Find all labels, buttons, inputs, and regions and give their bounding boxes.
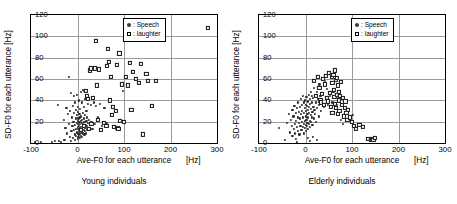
x-axis-tick-label: -100 (251, 146, 267, 154)
y-axis-tick-label: 40 (35, 97, 43, 105)
data-point-speech (290, 118, 292, 120)
data-point-speech (313, 117, 315, 119)
legend-entry-speech: : Speech (127, 21, 161, 30)
data-point-speech (290, 125, 292, 127)
data-point-speech (298, 122, 300, 124)
data-point-speech (307, 137, 309, 139)
data-point-speech (60, 141, 62, 143)
data-point-laughter (94, 39, 98, 43)
x-axis-tick-label: 100 (345, 146, 358, 154)
data-point-laughter (95, 83, 99, 87)
data-point-speech (316, 91, 318, 93)
data-point-speech (73, 95, 75, 97)
data-point-laughter (116, 127, 120, 131)
gridline-vertical (171, 15, 172, 143)
data-point-speech (81, 101, 83, 103)
panel-caption-elderly: Elderly individuals (228, 176, 456, 186)
data-point-speech (299, 106, 301, 108)
data-point-speech (302, 95, 304, 97)
data-point-speech (292, 115, 294, 117)
data-point-speech (317, 115, 319, 117)
data-point-speech (309, 140, 311, 142)
data-point-speech (79, 108, 81, 110)
data-point-laughter (317, 85, 321, 89)
data-point-speech (342, 123, 344, 125)
data-point-laughter (114, 109, 118, 113)
data-point-speech (81, 136, 83, 138)
x-axis-tick-label: 100 (117, 146, 130, 154)
data-point-laughter (89, 122, 93, 126)
x-axis-tick-label: -100 (23, 146, 39, 154)
data-point-speech (308, 123, 310, 125)
data-point-speech (291, 109, 293, 111)
data-point-speech (297, 101, 299, 103)
data-point-speech (320, 110, 322, 112)
data-point-speech (286, 122, 288, 124)
data-point-laughter (339, 80, 343, 84)
legend-elderly: : Speech : laughter (351, 18, 394, 42)
data-point-speech (69, 136, 71, 138)
data-point-speech (66, 132, 68, 134)
panel-young: SD-F0 for each utterance [Hz] : Speech :… (0, 0, 228, 204)
data-point-laughter (99, 128, 103, 132)
data-point-laughter (129, 108, 133, 112)
data-point-speech (305, 130, 307, 132)
data-point-speech (85, 110, 87, 112)
data-point-laughter (141, 132, 145, 136)
data-point-speech (57, 104, 59, 106)
data-point-laughter (86, 97, 90, 101)
figure-two-scatter-panels: SD-F0 for each utterance [Hz] : Speech :… (0, 0, 457, 204)
data-point-speech (295, 112, 297, 114)
data-point-speech (51, 141, 53, 143)
data-point-speech (277, 127, 279, 129)
x-axis-tick-label: 300 (438, 146, 451, 154)
legend-entry-laughter: : laughter (127, 30, 161, 39)
plot-area-young: : Speech : laughter 020406080100120-1000… (30, 14, 218, 144)
data-point-laughter (107, 60, 111, 64)
x-axis-tick-label: 0 (75, 146, 79, 154)
data-point-laughter (323, 82, 327, 86)
data-point-laughter (120, 82, 124, 86)
data-point-laughter (82, 124, 86, 128)
data-point-laughter (326, 99, 330, 103)
data-point-laughter (332, 88, 336, 92)
data-point-laughter (104, 124, 108, 128)
data-point-laughter (109, 75, 113, 79)
data-point-speech (310, 91, 312, 93)
data-point-laughter (330, 111, 334, 115)
y-axis-title-young: SD-F0 for each utterance [Hz] (1, 14, 15, 154)
data-point-laughter (105, 64, 109, 68)
data-point-laughter (312, 79, 316, 83)
data-point-speech (65, 107, 67, 109)
data-point-speech (89, 104, 91, 106)
data-point-speech (311, 124, 313, 126)
data-point-speech (293, 128, 295, 130)
legend-label-speech: : Speech (133, 21, 159, 30)
data-point-speech (289, 131, 291, 133)
data-point-laughter (314, 94, 318, 98)
data-point-laughter (87, 127, 91, 131)
data-point-speech (294, 132, 296, 134)
data-point-speech (296, 107, 298, 109)
gridline-vertical (399, 15, 400, 143)
data-point-speech (71, 116, 73, 118)
data-point-laughter (150, 104, 154, 108)
data-point-speech (295, 138, 297, 140)
legend-entry-speech: : Speech (355, 21, 389, 30)
data-point-speech (70, 92, 72, 94)
y-axis-tick-label: 20 (263, 118, 271, 126)
x-axis-tick-label: 0 (303, 146, 307, 154)
data-point-speech (300, 113, 302, 115)
data-point-speech (297, 130, 299, 132)
data-point-speech (95, 105, 97, 107)
data-point-laughter (96, 117, 100, 121)
data-point-speech (296, 141, 298, 143)
data-point-speech (91, 128, 93, 130)
data-point-laughter (343, 99, 347, 103)
data-point-speech (298, 133, 300, 135)
data-point-speech (314, 113, 316, 115)
filled-circle-icon (127, 23, 131, 27)
data-point-laughter (146, 79, 150, 83)
data-point-speech (67, 113, 69, 115)
open-square-icon (355, 32, 359, 36)
